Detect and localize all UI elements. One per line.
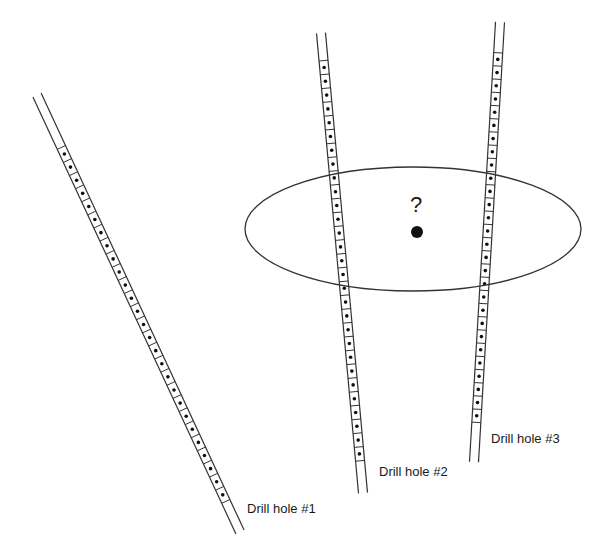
drill-holes-group [33, 22, 505, 534]
drill-hole-3-label: Drill hole #3 [491, 432, 560, 445]
drill-hole-1-label: Drill hole #1 [247, 502, 316, 515]
drill-hole-3 [470, 22, 505, 463]
drill-hole-diagram [0, 0, 608, 552]
drill-hole-1 [33, 93, 244, 534]
unknown-point-question-mark: ? [410, 194, 422, 216]
unknown-point-marker [411, 226, 423, 238]
drill-hole-2 [317, 33, 368, 494]
drill-hole-2-label: Drill hole #2 [379, 465, 448, 478]
